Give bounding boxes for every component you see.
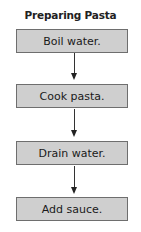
- step-label: Add sauce.: [42, 203, 103, 216]
- step-box-boil-water: Boil water.: [16, 29, 128, 53]
- diagram-title: Preparing Pasta: [0, 9, 141, 21]
- step-box-cook-pasta: Cook pasta.: [16, 84, 128, 108]
- arrow-down-icon: [71, 166, 79, 196]
- step-box-drain-water: Drain water.: [16, 141, 128, 165]
- arrow-down-icon: [71, 109, 79, 140]
- step-label: Boil water.: [43, 35, 101, 48]
- arrow-down-icon: [71, 53, 79, 83]
- step-label: Cook pasta.: [39, 90, 104, 103]
- step-box-add-sauce: Add sauce.: [16, 197, 128, 221]
- step-label: Drain water.: [38, 147, 105, 160]
